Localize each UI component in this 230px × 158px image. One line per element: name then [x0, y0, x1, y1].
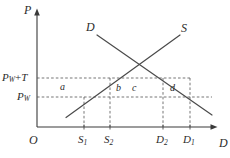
demand-curve-label: D — [86, 21, 95, 33]
x-axis-arrow-icon — [211, 124, 218, 130]
quantity-label-d2: D2 — [156, 134, 168, 146]
y-axis-arrow-icon — [34, 9, 40, 16]
quantity-subscript: 1 — [84, 138, 88, 147]
quantity-base: D — [183, 133, 191, 145]
quantity-subscript: 2 — [110, 138, 114, 147]
quantity-base: D — [156, 133, 164, 145]
price-base: P — [17, 90, 24, 102]
curve-group — [66, 35, 212, 118]
region-label-c: c — [132, 83, 136, 93]
y-axis-label: P — [24, 4, 31, 16]
price-label-world-price: PW — [17, 91, 30, 103]
supply-demand-tariff-figure: P D O D S PW+T PW S1 S2 D2 D1 a b c d — [0, 0, 230, 158]
region-label-d: d — [170, 83, 175, 93]
price-base: P — [2, 71, 9, 83]
price-subscript: W — [24, 94, 30, 103]
quantity-label-s1: S1 — [78, 134, 87, 146]
region-label-a: a — [60, 82, 65, 92]
price-term: T — [21, 71, 27, 83]
quantity-label-s2: S2 — [104, 134, 113, 146]
price-label-world-price-plus-tariff: PW+T — [2, 72, 27, 84]
supply-curve-label: S — [181, 22, 187, 34]
quantity-subscript: 1 — [191, 138, 195, 147]
region-label-b: b — [116, 83, 121, 93]
quantity-subscript: 2 — [164, 138, 168, 147]
quantity-label-d1: D1 — [183, 134, 195, 146]
supply-curve — [66, 35, 180, 118]
origin-label: O — [29, 134, 38, 146]
demand-curve — [97, 35, 212, 115]
x-axis-label: D — [219, 137, 228, 149]
